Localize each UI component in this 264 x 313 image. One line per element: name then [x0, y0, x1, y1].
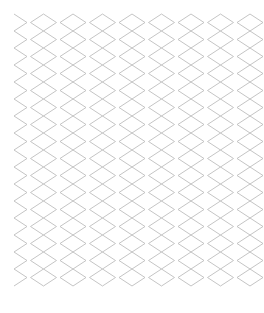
zigzag-line: [208, 14, 221, 286]
zigzag-line: [191, 14, 204, 286]
zigzag-line: [44, 14, 57, 286]
zigzag-line: [132, 14, 145, 286]
zigzag-line: [60, 14, 73, 286]
zigzag-line: [162, 14, 175, 286]
zigzag-line: [221, 14, 234, 286]
zigzag-line: [103, 14, 116, 286]
zigzag-line: [14, 14, 27, 286]
zigzag-line: [90, 14, 103, 286]
zigzag-line: [31, 14, 44, 286]
zigzag-line: [237, 14, 250, 286]
zigzag-line: [73, 14, 86, 286]
zigzag-line: [178, 14, 191, 286]
zigzag-line: [119, 14, 132, 286]
zigzag-line: [149, 14, 162, 286]
zigzag-pattern: [0, 0, 264, 313]
zigzag-line: [250, 14, 263, 286]
